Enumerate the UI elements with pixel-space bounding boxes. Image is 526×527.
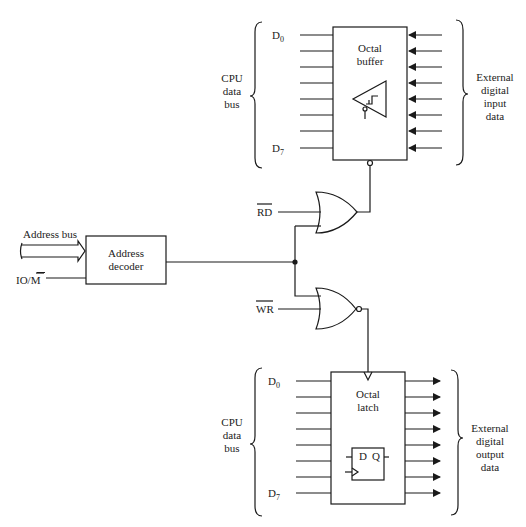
nor-gate-icon [316, 288, 356, 329]
cpu-bus-out-label-2: data [223, 429, 241, 441]
cpu-bus-label-1: CPU [221, 72, 242, 84]
address-bus-label: Address bus [23, 228, 77, 240]
cpu-bus-label-2: data [223, 85, 241, 97]
svg-text:D: D [359, 450, 367, 462]
nor-output-bubble [357, 307, 362, 312]
buffer-enable-bubble [368, 161, 373, 166]
svg-text:Q: Q [372, 450, 380, 462]
external-input-label-1: External [476, 71, 513, 83]
external-output-label-1: External [471, 422, 508, 434]
address-bus-arrow-icon [22, 241, 85, 261]
wr-signal-label: WR [256, 303, 274, 315]
external-output-brace [451, 370, 463, 515]
external-input-label-2: digital [481, 84, 509, 96]
or-gate-icon [316, 192, 357, 233]
decoder-label-1: Address [108, 247, 144, 259]
external-output-label-2: digital [476, 435, 504, 447]
octal-latch-label-2: latch [357, 401, 379, 413]
bit-d7-out-label: D7 [268, 487, 280, 502]
octal-latch-label-1: Octal [356, 388, 380, 400]
cpu-bus-brace-bottom [250, 368, 262, 516]
external-input-brace [456, 20, 468, 165]
cpu-bus-label-3: bus [224, 98, 239, 110]
output-section: CPU data bus D0 D7 Octal latch D Q [221, 368, 508, 516]
control-gates: RD WR [256, 192, 368, 372]
address-decoder-section: Address decoder Address bus IO/M [16, 228, 295, 286]
cpu-data-lines-in [300, 35, 333, 148]
io-interface-diagram: CPU data bus D0 D7 Octal buffer [0, 0, 526, 527]
cpu-data-lines-out [296, 381, 331, 493]
octal-buffer-label-1: Octal [358, 42, 382, 54]
external-input-label-4: data [486, 110, 504, 122]
d-flipflop-icon: D Q [345, 448, 389, 480]
octal-buffer-label-2: buffer [357, 55, 384, 67]
io-m-label: IO/M [16, 274, 41, 286]
input-section: CPU data bus D0 D7 Octal buffer [221, 20, 513, 212]
external-input-label-3: input [484, 97, 507, 109]
decoder-label-2: decoder [109, 260, 144, 272]
cpu-bus-out-label-1: CPU [221, 416, 242, 428]
rd-signal-label: RD [257, 206, 272, 218]
bit-d0-out-label: D0 [268, 375, 280, 390]
external-output-label-4: data [481, 461, 499, 473]
cpu-bus-out-label-3: bus [224, 442, 239, 454]
external-output-arrows [405, 381, 440, 493]
bit-d0-label: D0 [272, 29, 284, 44]
cpu-bus-brace-top [250, 22, 262, 168]
external-input-arrows [409, 35, 442, 148]
external-output-label-3: output [476, 448, 504, 460]
bit-d7-label: D7 [272, 142, 284, 157]
